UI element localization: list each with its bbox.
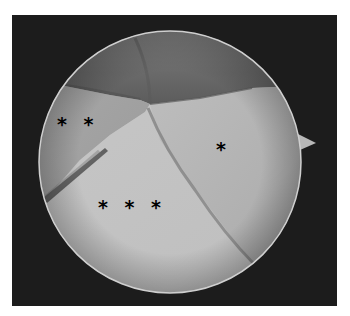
label-single-asterisk: *: [216, 140, 231, 159]
arthroscopic-view: [0, 0, 350, 316]
label-double-asterisk: * *: [57, 115, 99, 134]
label-triple-asterisk: * * *: [98, 198, 166, 217]
